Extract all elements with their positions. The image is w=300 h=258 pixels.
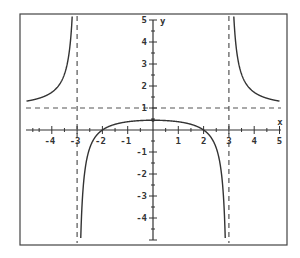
- x-tick-label: -3: [70, 136, 81, 146]
- y-tick-label: 3: [142, 59, 147, 69]
- y-tick-label: 4: [142, 37, 148, 47]
- x-tick-label: 5: [277, 136, 282, 146]
- y-axis-label: y: [160, 16, 166, 26]
- x-tick-label: 4: [251, 136, 257, 146]
- y-intercept-point: [151, 119, 154, 122]
- y-tick-label: -4: [136, 213, 147, 223]
- y-tick-label: -1: [136, 147, 147, 157]
- x-tick-label: 1: [176, 136, 181, 146]
- y-tick-label: 1: [142, 103, 147, 113]
- x-axis-label: x: [277, 117, 283, 127]
- y-tick-label: -2: [136, 169, 147, 179]
- x-tick-label: -2: [95, 136, 106, 146]
- y-tick-label: 5: [142, 15, 147, 25]
- y-tick-label: 2: [142, 81, 147, 91]
- y-tick-label: -3: [136, 191, 147, 201]
- x-tick-label: -1: [120, 136, 131, 146]
- function-graph: -4-3-2-11234554321-1-2-3-4xy: [0, 0, 300, 258]
- x-tick-label: -4: [44, 136, 55, 146]
- x-tick-label: 2: [201, 136, 206, 146]
- x-tick-label: 3: [226, 136, 231, 146]
